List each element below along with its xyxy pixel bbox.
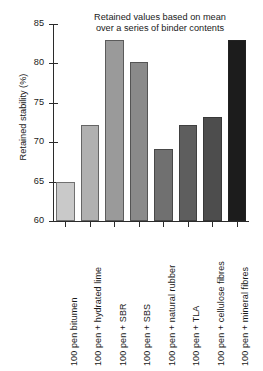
bar-1 (56, 182, 75, 221)
bar-5 (154, 149, 173, 221)
plot-area: 606570758085 (53, 24, 249, 221)
bar-2 (81, 125, 100, 221)
y-axis-line (53, 24, 54, 222)
y-tick-label-85: 85 (22, 18, 44, 28)
x-axis-label-3: 100 pen + SBR (118, 303, 128, 366)
x-tick-7 (212, 222, 213, 227)
bar-7 (203, 117, 222, 221)
bar-4 (130, 62, 149, 221)
x-tick-3 (114, 222, 115, 227)
y-tick-label-70: 70 (22, 136, 44, 146)
x-axis-labels: 100 pen bitumen100 pen + hydrated lime10… (53, 228, 249, 368)
x-axis-label-5: 100 pen + natural rubber (167, 265, 177, 366)
x-tick-5 (163, 222, 164, 227)
bar-chart-figure: Retained values based on mean over a ser… (0, 0, 263, 371)
x-axis-label-2: 100 pen + hydrated lime (93, 267, 103, 366)
bar-3 (105, 40, 124, 221)
x-tick-1 (65, 222, 66, 227)
x-axis-label-8: 100 pen + mineral fibres (240, 267, 250, 366)
y-tick-label-80: 80 (22, 57, 44, 67)
bar-8 (228, 40, 247, 221)
x-axis-label-4: 100 pen + SBS (142, 304, 152, 366)
y-axis-label: Retained stability (%) (18, 52, 28, 182)
y-tick-inner-60 (54, 221, 58, 222)
x-tick-8 (237, 222, 238, 227)
x-tick-4 (139, 222, 140, 227)
y-tick-inner-85 (54, 24, 58, 25)
y-tick-label-65: 65 (22, 176, 44, 186)
y-tick-label-60: 60 (22, 215, 44, 225)
y-tick-inner-70 (54, 142, 58, 143)
x-axis-label-7: 100 pen + cellulose fibres (216, 261, 226, 366)
x-tick-2 (90, 222, 91, 227)
x-axis-line (53, 221, 249, 222)
bar-6 (179, 125, 198, 221)
x-axis-label-1: 100 pen bitumen (69, 297, 79, 366)
y-tick-inner-75 (54, 103, 58, 104)
x-tick-6 (188, 222, 189, 227)
x-axis-label-6: 100 pen + TLA (191, 306, 201, 366)
y-tick-label-75: 75 (22, 97, 44, 107)
y-tick-inner-80 (54, 63, 58, 64)
